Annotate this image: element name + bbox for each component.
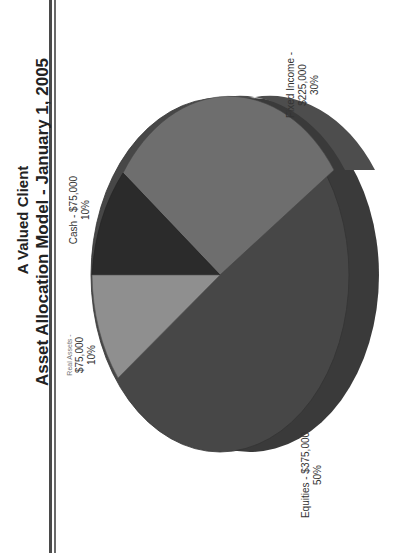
data-label-fixed-income-value: $225,000 <box>297 30 309 140</box>
data-label-equities: Equities - $375,000 50% <box>300 405 324 545</box>
data-label-fixed-income-name: Fixed Income - <box>285 30 297 140</box>
data-label-fixed-income: Fixed Income - $225,000 30% <box>285 30 321 140</box>
data-label-real-assets: Real Assets - $75,000 10% <box>65 300 98 410</box>
data-label-equities-value: Equities - $375,000 <box>300 405 312 545</box>
data-label-equities-percent: 50% <box>312 405 324 545</box>
data-label-cash-value: Cash - $75,000 <box>68 160 80 260</box>
data-label-cash: Cash - $75,000 10% <box>68 160 92 260</box>
data-label-real-assets-percent: 10% <box>86 300 98 410</box>
data-label-real-assets-value: $75,000 <box>74 300 86 410</box>
data-label-cash-percent: 10% <box>80 160 92 260</box>
data-label-real-assets-name: Real Assets - <box>65 300 74 410</box>
pie-chart <box>0 0 408 553</box>
data-label-fixed-income-percent: 30% <box>309 30 321 140</box>
